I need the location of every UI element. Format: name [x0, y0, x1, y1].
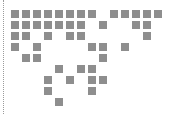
grid-cell [143, 10, 151, 18]
grid-cell [143, 32, 151, 40]
pixel-grid [0, 0, 169, 114]
grid-cell [66, 32, 74, 40]
grid-cell [99, 76, 107, 84]
grid-cell [55, 65, 63, 73]
grid-cell [99, 54, 107, 62]
grid-cell [88, 65, 96, 73]
grid-cell [33, 43, 41, 51]
grid-cell [77, 32, 85, 40]
grid-cell [11, 32, 19, 40]
grid-cell [11, 10, 19, 18]
grid-cell [132, 10, 140, 18]
grid-cell [88, 76, 96, 84]
grid-cell [44, 87, 52, 95]
grid-cell [44, 21, 52, 29]
grid-cell [11, 43, 19, 51]
grid-cell [66, 76, 74, 84]
grid-cell [11, 21, 19, 29]
grid-cell [88, 87, 96, 95]
grid-cell [143, 21, 151, 29]
grid-cell [121, 43, 129, 51]
grid-cell [44, 32, 52, 40]
grid-cell [22, 10, 30, 18]
grid-cell [55, 21, 63, 29]
grid-cell [55, 98, 63, 106]
grid-cell [154, 10, 162, 18]
grid-cell [44, 76, 52, 84]
grid-cell [66, 10, 74, 18]
grid-cell [33, 54, 41, 62]
grid-cell [88, 10, 96, 18]
grid-cell [77, 21, 85, 29]
grid-cell [22, 54, 30, 62]
grid-cell [99, 43, 107, 51]
grid-cell [121, 10, 129, 18]
grid-cell [88, 43, 96, 51]
grid-cell [77, 65, 85, 73]
grid-cell [110, 10, 118, 18]
grid-cell [33, 10, 41, 18]
grid-cell [66, 21, 74, 29]
grid-cell [33, 21, 41, 29]
grid-cell [99, 21, 107, 29]
grid-cell [22, 21, 30, 29]
grid-cell [22, 32, 30, 40]
grid-cell [132, 21, 140, 29]
grid-cell [44, 10, 52, 18]
grid-cell [77, 10, 85, 18]
grid-cell [55, 10, 63, 18]
